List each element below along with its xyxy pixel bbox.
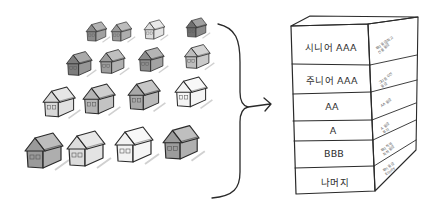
curly-brace bbox=[212, 24, 248, 198]
house-icon bbox=[66, 52, 96, 77]
house-icon bbox=[175, 77, 212, 108]
house-icon bbox=[83, 84, 120, 115]
house-icon bbox=[163, 126, 205, 161]
house-icon bbox=[115, 127, 159, 164]
house-icon bbox=[86, 22, 110, 42]
tranche-label-a: A bbox=[295, 125, 371, 136]
house-icon bbox=[99, 50, 129, 75]
house-icon bbox=[128, 80, 165, 111]
house-icon bbox=[111, 22, 135, 42]
house-icon bbox=[67, 131, 111, 168]
house-icon bbox=[25, 133, 69, 170]
tranche-label-equity: 나머지 bbox=[297, 175, 373, 189]
house-icon bbox=[186, 18, 210, 38]
tranche-label-senior-aaa: 시니어 AAA bbox=[293, 40, 369, 54]
house-icon bbox=[184, 45, 214, 70]
house-icon bbox=[138, 48, 168, 73]
tranche-label-bbb: BBB bbox=[296, 148, 372, 159]
tranche-label-aa: AA bbox=[294, 101, 370, 112]
house-pool bbox=[25, 18, 214, 170]
tranche-label-junior-aaa: 주니어 AAA bbox=[294, 73, 370, 87]
house-icon bbox=[144, 20, 168, 40]
house-icon bbox=[43, 87, 80, 118]
arrow-right-icon bbox=[248, 98, 271, 111]
